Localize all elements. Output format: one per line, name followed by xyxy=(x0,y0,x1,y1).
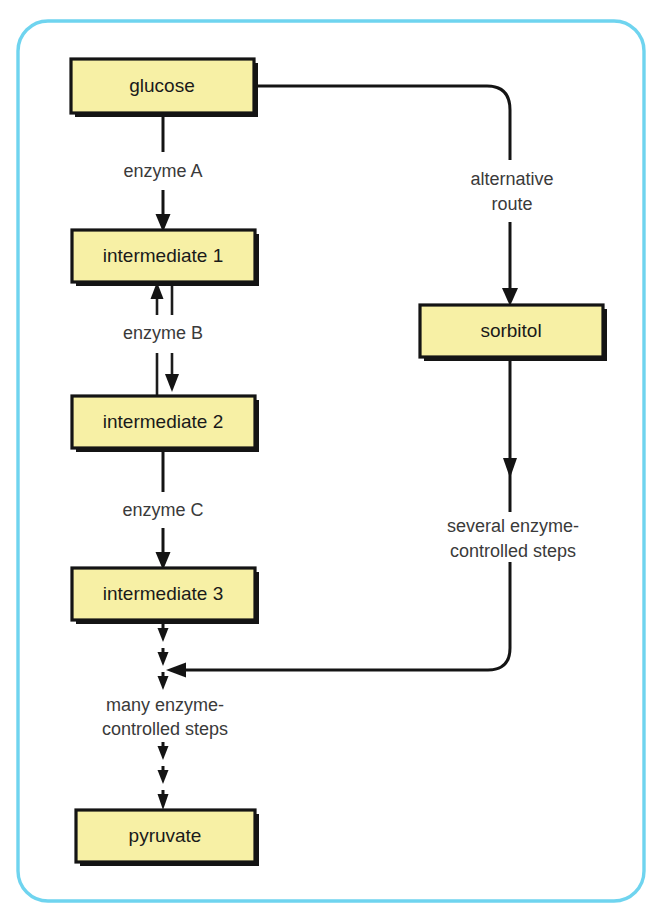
edge-label-several-steps-line2: controlled steps xyxy=(450,541,576,561)
node-intermediate2[interactable]: intermediate 2 xyxy=(72,396,259,452)
edge-label-enzyme-c: enzyme C xyxy=(122,500,203,520)
diagram-frame xyxy=(18,21,644,901)
edge-glucose-to-alternative-route xyxy=(253,86,510,160)
node-intermediate1[interactable]: intermediate 1 xyxy=(72,230,259,286)
edge-intermediate3-to-pyruvate-dashed xyxy=(158,624,169,810)
node-sorbitol[interactable]: sorbitol xyxy=(420,305,607,361)
node-glucose[interactable]: glucose xyxy=(71,59,258,117)
edge-label-enzyme-b: enzyme B xyxy=(123,323,203,343)
node-glucose-label: glucose xyxy=(129,75,195,96)
node-sorbitol-label: sorbitol xyxy=(480,320,541,341)
pathway-diagram: glucose intermediate 1 intermediate 2 in… xyxy=(0,0,661,915)
edge-label-many-steps: many enzyme- controlled steps xyxy=(102,695,228,739)
node-intermediate3-label: intermediate 3 xyxy=(103,583,223,604)
edge-label-several-steps-line1: several enzyme- xyxy=(447,516,579,536)
node-intermediate3[interactable]: intermediate 3 xyxy=(72,568,259,624)
arrow-head-down-several-steps xyxy=(503,458,517,478)
arrow-head-left-return xyxy=(166,663,186,678)
node-pyruvate[interactable]: pyruvate xyxy=(76,810,259,866)
node-pyruvate-label: pyruvate xyxy=(129,825,202,846)
edge-label-many-steps-line2: controlled steps xyxy=(102,719,228,739)
edge-label-alternative-route: alternative route xyxy=(470,169,553,214)
edge-label-alternative-route-line2: route xyxy=(491,194,532,214)
edge-label-many-steps-line1: many enzyme- xyxy=(106,695,224,715)
edge-label-several-steps: several enzyme- controlled steps xyxy=(447,516,579,561)
arrow-head-down-sorbitol xyxy=(502,288,518,306)
arrow-head-down-intermediate2 xyxy=(165,374,179,392)
edge-label-alternative-route-line1: alternative xyxy=(470,169,553,189)
node-intermediate1-label: intermediate 1 xyxy=(103,245,223,266)
diagram-page: glucose intermediate 1 intermediate 2 in… xyxy=(0,0,661,915)
edge-label-enzyme-a: enzyme A xyxy=(123,161,202,181)
node-intermediate2-label: intermediate 2 xyxy=(103,411,223,432)
